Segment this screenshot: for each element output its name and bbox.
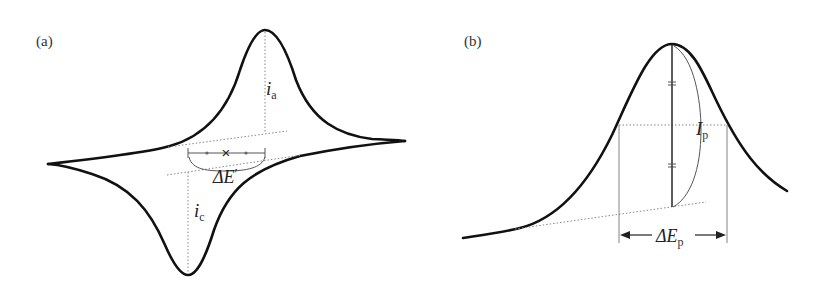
baseline-line <box>515 202 706 229</box>
panel-a: (a) × ia ic ΔE′ <box>36 30 405 275</box>
panel-a-label: (a) <box>36 33 53 50</box>
panel-b: (b) Ip ΔEp <box>463 33 787 249</box>
peak-width-label: ΔEp <box>655 226 684 249</box>
cathodic-branch-curve <box>48 141 405 275</box>
peak-curve <box>463 44 787 238</box>
panel-b-label: (b) <box>464 33 482 50</box>
midpoint-cross-icon: × <box>222 144 231 161</box>
diagram-canvas: (a) × ia ic ΔE′ (b) <box>0 0 816 281</box>
cathodic-current-label: ic <box>194 200 205 224</box>
anodic-current-label: ia <box>266 78 277 102</box>
peak-current-label: Ip <box>695 118 708 142</box>
peak-separation-label: ΔE′ <box>212 167 238 187</box>
